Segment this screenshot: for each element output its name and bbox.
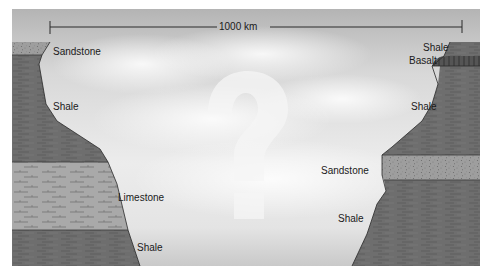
label-right-shale-middle: Shale — [411, 102, 437, 112]
label-right-shale-bottom: Shale — [338, 214, 364, 224]
left-shale-bottom — [12, 230, 140, 266]
label-left-shale-middle: Shale — [53, 102, 79, 112]
right-sandstone — [382, 155, 480, 180]
cross-section-diagram: 1000 km Sandstone Shale Limestone Shale … — [12, 9, 480, 266]
right-basalt — [432, 56, 480, 66]
scale-bar-label: 1000 km — [219, 22, 257, 32]
label-right-shale-top: Shale — [423, 43, 449, 53]
label-left-shale-bottom: Shale — [137, 243, 163, 253]
label-left-sandstone: Sandstone — [53, 47, 101, 57]
label-left-limestone: Limestone — [118, 193, 164, 203]
label-right-basalt: Basalt — [409, 56, 437, 66]
label-right-sandstone: Sandstone — [321, 166, 369, 176]
left-limestone — [12, 162, 128, 230]
